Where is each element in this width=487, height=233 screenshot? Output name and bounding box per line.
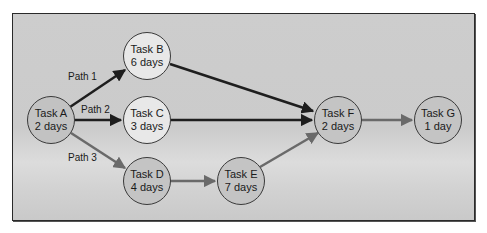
node-task-g-name: Task G <box>421 107 455 119</box>
node-task-e: Task E 7 days <box>218 158 265 205</box>
node-task-f-name: Task F <box>322 107 355 119</box>
node-task-f-duration: 2 days <box>322 120 355 132</box>
node-task-g-duration: 1 day <box>425 120 452 132</box>
node-task-d: Task D 4 days <box>124 158 171 205</box>
node-task-a-duration: 2 days <box>35 120 68 132</box>
node-task-f: Task F 2 days <box>315 97 362 144</box>
node-task-c-duration: 3 days <box>131 120 164 132</box>
node-task-a-name: Task A <box>35 107 68 119</box>
node-task-c: Task C 3 days <box>124 97 171 144</box>
node-task-d-duration: 4 days <box>131 181 164 193</box>
path-3-label: Path 3 <box>68 152 97 163</box>
node-task-g: Task G 1 day <box>415 97 462 144</box>
network-diagram: Path 1 Path 2 Path 3 Task A 2 days Task … <box>0 0 487 233</box>
edge-b-f <box>170 64 313 111</box>
node-task-a: Task A 2 days <box>28 97 75 144</box>
node-task-c-name: Task C <box>130 107 164 119</box>
node-task-e-duration: 7 days <box>225 181 258 193</box>
path-1-label: Path 1 <box>68 71 97 82</box>
node-task-e-name: Task E <box>224 168 257 180</box>
node-task-d-name: Task D <box>130 168 164 180</box>
path-2-label: Path 2 <box>81 104 110 115</box>
node-task-b-duration: 6 days <box>131 56 164 68</box>
edge-e-f <box>260 133 318 167</box>
node-task-b-name: Task B <box>130 43 163 55</box>
node-task-b: Task B 6 days <box>124 33 171 80</box>
